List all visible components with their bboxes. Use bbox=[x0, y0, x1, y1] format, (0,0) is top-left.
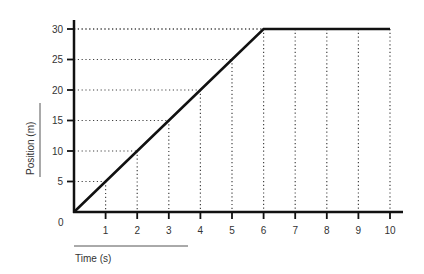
x-tick-label: 8 bbox=[324, 225, 330, 236]
y-tick-label: 30 bbox=[52, 24, 64, 35]
position-time-chart: 5101520253012345678910 0 Position (m) Ti… bbox=[0, 0, 424, 274]
x-axis-title: Time (s) bbox=[75, 253, 111, 264]
tick-marks bbox=[67, 29, 390, 219]
x-tick-label: 3 bbox=[166, 225, 172, 236]
y-tick-label: 15 bbox=[52, 115, 64, 126]
y-tick-label: 10 bbox=[52, 146, 64, 157]
y-axis-title: Position (m) bbox=[25, 122, 36, 175]
x-tick-label: 2 bbox=[134, 225, 140, 236]
guide-lines bbox=[74, 29, 390, 212]
x-tick-label: 6 bbox=[261, 225, 267, 236]
x-tick-label: 9 bbox=[356, 225, 362, 236]
x-tick-label: 7 bbox=[292, 225, 298, 236]
tick-labels: 5101520253012345678910 bbox=[52, 24, 396, 237]
y-tick-label: 25 bbox=[52, 54, 64, 65]
x-tick-label: 10 bbox=[384, 225, 396, 236]
y-tick-label: 20 bbox=[52, 85, 64, 96]
origin-label: 0 bbox=[58, 217, 64, 228]
y-tick-label: 5 bbox=[57, 176, 63, 187]
x-tick-label: 5 bbox=[229, 225, 235, 236]
axes bbox=[73, 20, 403, 213]
x-tick-label: 1 bbox=[103, 225, 109, 236]
x-tick-label: 4 bbox=[198, 225, 204, 236]
